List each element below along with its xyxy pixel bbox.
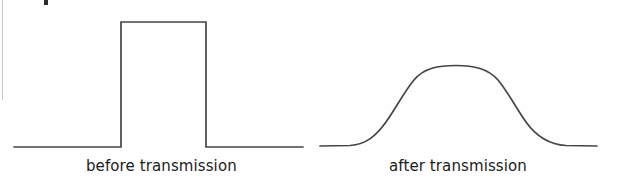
caption-before-transmission: before transmission [86,157,237,175]
smoothed-pulse-waveform [320,66,597,147]
caption-after-transmission: after transmission [389,157,527,175]
signal-transmission-figure: before transmission after transmission [0,0,622,194]
square-pulse-waveform [14,22,303,147]
